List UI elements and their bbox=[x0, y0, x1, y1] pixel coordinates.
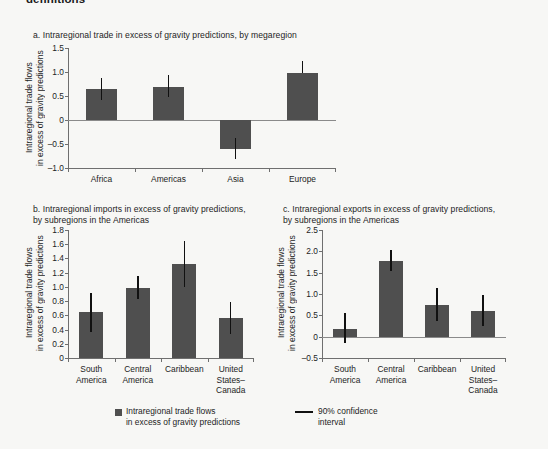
panel-a-plot-area: 1.51.00.50–0.5–1.0AfricaAmericasAsiaEuro… bbox=[68, 48, 336, 168]
a-y-tick bbox=[65, 96, 69, 97]
c-error-bar bbox=[344, 313, 346, 342]
c-y-tick bbox=[319, 273, 323, 274]
a-x-end-tick bbox=[68, 168, 69, 172]
b-y-tick-label: 0.6 bbox=[34, 310, 64, 320]
panel-a-y-axis-label: Intraregional trade flows in excess of g… bbox=[24, 46, 46, 170]
a-x-tick-label: Americas bbox=[135, 174, 202, 185]
b-y-tick bbox=[65, 330, 69, 331]
b-y-tick bbox=[65, 273, 69, 274]
b-y-tick bbox=[65, 315, 69, 316]
c-error-bar bbox=[390, 250, 392, 272]
panel-c-title: c. Intraregional exports in excess of gr… bbox=[283, 204, 533, 227]
b-error-bar bbox=[230, 302, 232, 334]
c-error-bar bbox=[482, 295, 484, 327]
b-y-tick-label: 0.2 bbox=[34, 339, 64, 349]
b-error-bar bbox=[90, 293, 92, 333]
chart-panel-a: Intraregional trade flows in excess of g… bbox=[24, 46, 344, 186]
c-x-tick-label: Central America bbox=[368, 364, 414, 385]
b-x-tick-label: Caribbean bbox=[161, 364, 208, 375]
c-y-tick-label: 1.5 bbox=[288, 268, 318, 278]
a-x-tick-label: Africa bbox=[68, 174, 135, 185]
b-x-tick-label: South America bbox=[68, 364, 115, 385]
a-x-end-tick bbox=[335, 168, 336, 172]
a-bar bbox=[287, 73, 319, 120]
c-zero-baseline bbox=[322, 337, 506, 338]
b-y-tick-label: 1.2 bbox=[34, 268, 64, 278]
c-x-tick bbox=[414, 358, 415, 362]
b-x-tick bbox=[208, 358, 209, 362]
c-y-tick-label: 0.5 bbox=[288, 310, 318, 320]
c-y-tick-label: –0.5 bbox=[288, 353, 318, 363]
b-y-tick bbox=[65, 230, 69, 231]
chart-panel-b: Intraregional trade flows in excess of g… bbox=[24, 228, 274, 398]
legend-ci-label: 90% confidence interval bbox=[318, 406, 428, 428]
c-x-tick bbox=[460, 358, 461, 362]
b-error-bar bbox=[184, 241, 186, 287]
c-x-end-tick bbox=[322, 358, 323, 362]
b-x-end-tick bbox=[253, 358, 254, 362]
c-x-tick bbox=[368, 358, 369, 362]
a-x-tick-label: Asia bbox=[202, 174, 269, 185]
b-x-tick bbox=[115, 358, 116, 362]
c-bar bbox=[379, 261, 403, 337]
panel-a-title: a. Intraregional trade in excess of grav… bbox=[33, 30, 453, 41]
a-y-tick bbox=[65, 144, 69, 145]
a-y-tick-label: –0.5 bbox=[34, 139, 64, 149]
c-x-end-tick bbox=[505, 358, 506, 362]
b-y-axis bbox=[68, 230, 69, 358]
c-y-tick-label: 2.5 bbox=[288, 225, 318, 235]
a-x-tick bbox=[202, 168, 203, 172]
b-y-tick-label: 0.8 bbox=[34, 296, 64, 306]
b-y-tick bbox=[65, 258, 69, 259]
a-error-bar bbox=[101, 78, 103, 101]
chart-panel-c: Intraregional trade flows in excess of g… bbox=[276, 228, 534, 398]
c-y-tick-label: 1.0 bbox=[288, 289, 318, 299]
b-y-tick-label: 1.0 bbox=[34, 282, 64, 292]
b-x-end-tick bbox=[68, 358, 69, 362]
c-x-tick-label: South America bbox=[322, 364, 368, 385]
c-y-tick bbox=[319, 251, 323, 252]
c-y-tick bbox=[319, 315, 323, 316]
a-error-bar bbox=[302, 61, 304, 73]
b-x-tick-label: United States– Canada bbox=[208, 364, 255, 396]
b-y-tick bbox=[65, 301, 69, 302]
b-y-tick-label: 1.4 bbox=[34, 253, 64, 263]
c-y-tick bbox=[319, 230, 323, 231]
panel-b-title: b. Intraregional imports in excess of gr… bbox=[33, 204, 273, 227]
b-y-tick bbox=[65, 287, 69, 288]
a-y-tick-label: 0 bbox=[34, 115, 64, 125]
c-y-tick bbox=[319, 294, 323, 295]
a-y-tick-label: 0.5 bbox=[34, 91, 64, 101]
c-y-tick-label: 2.0 bbox=[288, 246, 318, 256]
b-y-tick-label: 0 bbox=[34, 353, 64, 363]
ci-line-swatch-icon bbox=[295, 411, 313, 413]
a-y-tick bbox=[65, 72, 69, 73]
b-x-tick bbox=[161, 358, 162, 362]
b-y-tick-label: 0.4 bbox=[34, 325, 64, 335]
legend-bar-label: Intraregional trade flows in excess of g… bbox=[126, 406, 286, 428]
a-y-axis bbox=[68, 48, 69, 168]
b-error-bar bbox=[137, 276, 139, 299]
a-y-tick-label: 1.5 bbox=[34, 43, 64, 53]
c-x-tick-label: Caribbean bbox=[414, 364, 460, 375]
a-x-tick bbox=[269, 168, 270, 172]
a-error-bar bbox=[235, 138, 237, 159]
a-zero-baseline bbox=[68, 120, 336, 121]
c-x-tick-label: United States– Canada bbox=[460, 364, 506, 396]
a-y-tick bbox=[65, 48, 69, 49]
c-error-bar bbox=[436, 288, 438, 322]
a-y-tick-label: 1.0 bbox=[34, 67, 64, 77]
a-x-tick bbox=[135, 168, 136, 172]
a-y-tick-label: –1.0 bbox=[34, 163, 64, 173]
panel-c-plot-area: 2.52.01.51.00.50–0.5South AmericaCentral… bbox=[322, 230, 506, 358]
clipped-page-heading: definitions bbox=[26, 0, 85, 5]
b-y-tick bbox=[65, 344, 69, 345]
b-y-tick-label: 1.8 bbox=[34, 225, 64, 235]
b-y-tick bbox=[65, 244, 69, 245]
panel-b-plot-area: 1.81.61.41.21.00.80.60.40.20South Americ… bbox=[68, 230, 254, 358]
a-error-bar bbox=[168, 75, 170, 97]
b-y-tick-label: 1.6 bbox=[34, 239, 64, 249]
b-x-tick-label: Central America bbox=[115, 364, 162, 385]
bar-swatch-icon bbox=[115, 409, 122, 416]
a-x-tick-label: Europe bbox=[269, 174, 336, 185]
